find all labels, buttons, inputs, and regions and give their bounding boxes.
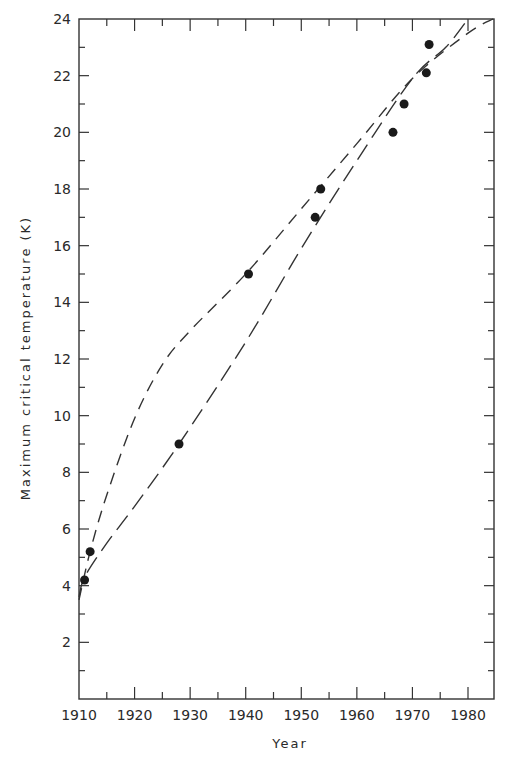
data-point xyxy=(86,547,95,556)
x-tick-label: 1920 xyxy=(117,707,153,723)
x-axis-ticks: 19101920193019401950196019701980 xyxy=(61,19,486,723)
y-tick-label: 2 xyxy=(62,634,71,650)
x-axis-title: Year xyxy=(271,736,308,751)
y-tick-label: 16 xyxy=(53,238,71,254)
data-point xyxy=(175,440,184,449)
plot-border xyxy=(79,19,494,699)
y-tick-label: 12 xyxy=(53,351,71,367)
y-tick-label: 24 xyxy=(53,11,71,27)
chart: 24681012141618202224 1910192019301940195… xyxy=(0,0,510,764)
x-tick-label: 1930 xyxy=(172,707,208,723)
data-point xyxy=(311,213,320,222)
y-tick-label: 4 xyxy=(62,578,71,594)
x-tick-label: 1940 xyxy=(228,707,264,723)
data-point xyxy=(388,128,397,137)
x-tick-label: 1960 xyxy=(339,707,375,723)
data-points xyxy=(80,40,434,585)
x-tick-label: 1950 xyxy=(283,707,319,723)
x-tick-label: 1970 xyxy=(395,707,431,723)
plot-frame xyxy=(79,19,494,699)
upper-trend-curve xyxy=(79,19,493,600)
data-point xyxy=(425,40,434,49)
y-tick-label: 14 xyxy=(53,294,71,310)
data-point xyxy=(316,185,325,194)
data-point xyxy=(422,68,431,77)
y-axis-title: Maximum critical temperature (K) xyxy=(18,216,33,500)
y-tick-label: 6 xyxy=(62,521,71,537)
trend-curves xyxy=(79,19,493,600)
lower-trend-curve xyxy=(79,19,468,597)
data-point xyxy=(400,100,409,109)
y-tick-label: 10 xyxy=(53,408,71,424)
y-tick-label: 18 xyxy=(53,181,71,197)
data-point xyxy=(80,576,89,585)
x-tick-label: 1910 xyxy=(61,707,97,723)
y-tick-label: 20 xyxy=(53,124,71,140)
y-tick-label: 22 xyxy=(53,68,71,84)
y-axis-ticks: 24681012141618202224 xyxy=(53,11,494,671)
data-point xyxy=(244,270,253,279)
x-tick-label: 1980 xyxy=(450,707,486,723)
y-tick-label: 8 xyxy=(62,464,71,480)
